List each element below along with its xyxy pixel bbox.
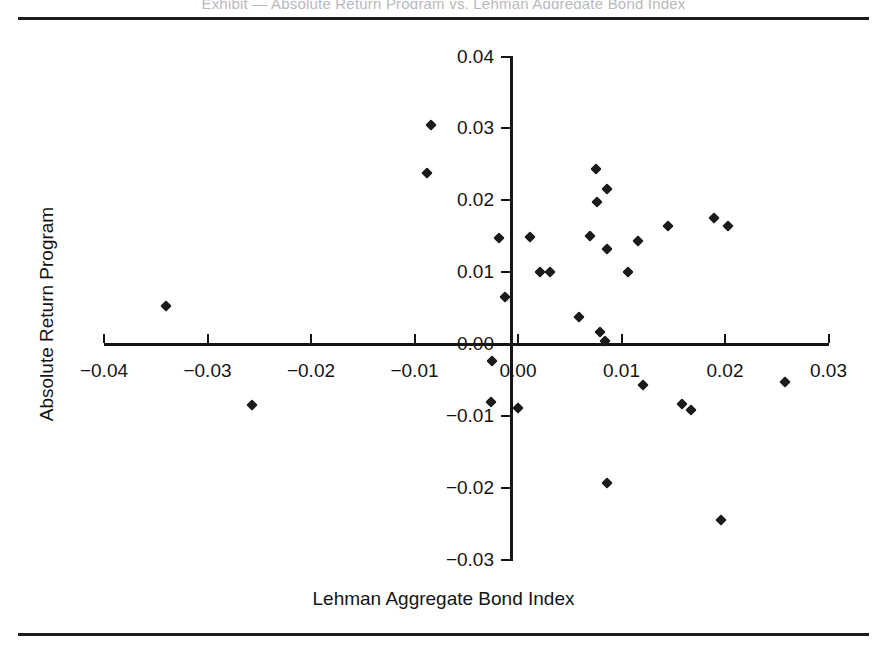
scatter-point bbox=[632, 236, 643, 247]
scatter-point bbox=[662, 221, 673, 232]
y-axis-tick bbox=[501, 415, 510, 417]
scatter-point bbox=[421, 167, 432, 178]
scatter-point bbox=[601, 243, 612, 254]
y-axis-title: Absolute Return Program bbox=[36, 164, 58, 464]
scatter-point bbox=[486, 356, 497, 367]
x-axis-tick-label: −0.01 bbox=[390, 360, 438, 382]
scatter-point bbox=[585, 231, 596, 242]
y-axis-tick bbox=[501, 487, 510, 489]
y-axis-tick bbox=[501, 271, 510, 273]
y-axis-tick-label: 0.00 bbox=[457, 333, 494, 355]
figure-container: Exhibit — Absolute Return Program vs. Le… bbox=[0, 0, 887, 651]
x-axis-tick bbox=[517, 334, 519, 343]
y-axis-line bbox=[510, 56, 513, 561]
x-axis-tick bbox=[828, 334, 830, 343]
scatter-point bbox=[499, 292, 510, 303]
x-axis-tick bbox=[310, 334, 312, 343]
x-axis-tick bbox=[724, 334, 726, 343]
y-axis-tick bbox=[501, 199, 510, 201]
scatter-plot: −0.04−0.03−0.02−0.010.000.010.020.03 −0.… bbox=[0, 0, 887, 651]
x-axis-tick-label: −0.03 bbox=[183, 360, 231, 382]
scatter-point bbox=[544, 267, 555, 278]
x-axis-tick-label: −0.02 bbox=[287, 360, 335, 382]
scatter-point bbox=[601, 477, 612, 488]
x-axis-tick-label: 0.03 bbox=[810, 360, 847, 382]
scatter-point bbox=[722, 221, 733, 232]
scatter-point bbox=[638, 380, 649, 391]
y-axis-tick-label: −0.01 bbox=[446, 405, 494, 427]
x-axis-tick bbox=[207, 334, 209, 343]
y-axis-tick bbox=[501, 127, 510, 129]
scatter-point bbox=[494, 233, 505, 244]
y-axis-tick-label: 0.03 bbox=[457, 117, 494, 139]
x-axis-tick-label: −0.04 bbox=[80, 360, 128, 382]
y-axis-tick-label: 0.02 bbox=[457, 189, 494, 211]
y-axis-tick-label: 0.01 bbox=[457, 261, 494, 283]
scatter-point bbox=[676, 398, 687, 409]
y-axis-tick bbox=[501, 559, 510, 561]
y-axis-tick bbox=[501, 56, 510, 58]
scatter-point bbox=[622, 267, 633, 278]
scatter-point bbox=[685, 405, 696, 416]
x-axis-tick bbox=[103, 334, 105, 343]
scatter-point bbox=[246, 400, 257, 411]
scatter-point bbox=[573, 311, 584, 322]
scatter-point bbox=[525, 231, 536, 242]
scatter-point bbox=[591, 196, 602, 207]
y-axis-tick-label: −0.02 bbox=[446, 477, 494, 499]
x-axis-tick bbox=[414, 334, 416, 343]
x-axis-tick bbox=[621, 334, 623, 343]
scatter-point bbox=[779, 376, 790, 387]
scatter-point bbox=[708, 213, 719, 224]
scatter-point bbox=[425, 119, 436, 130]
x-axis-tick-label: 0.02 bbox=[707, 360, 744, 382]
scatter-point bbox=[590, 164, 601, 175]
x-axis-tick-label: 0.01 bbox=[603, 360, 640, 382]
y-axis-tick-label: −0.03 bbox=[446, 549, 494, 571]
y-axis-tick-label: 0.04 bbox=[457, 46, 494, 68]
y-axis-tick bbox=[501, 343, 510, 345]
scatter-point bbox=[160, 300, 171, 311]
x-axis-tick-label: 0.00 bbox=[500, 360, 537, 382]
scatter-point bbox=[512, 402, 523, 413]
scatter-point bbox=[715, 515, 726, 526]
scatter-point bbox=[601, 183, 612, 194]
x-axis-title: Lehman Aggregate Bond Index bbox=[0, 588, 887, 610]
